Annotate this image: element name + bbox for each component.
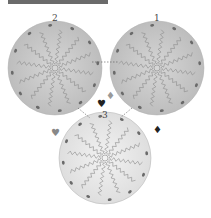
disc-label-2: 2 <box>52 13 58 23</box>
disc-2 <box>8 21 102 115</box>
disc-diagram <box>0 0 211 218</box>
diamond-marker-icon: ♦ <box>106 91 115 101</box>
disc-label-1: 1 <box>154 13 160 23</box>
disc-1 <box>110 21 204 115</box>
heart-marker-icon: ♥ <box>97 99 106 109</box>
disc-label-3: 3 <box>102 110 108 120</box>
disc-3 <box>59 112 151 204</box>
diamond-marker-icon: ♦ <box>153 125 162 135</box>
heart-marker-icon: ♥ <box>51 128 60 138</box>
